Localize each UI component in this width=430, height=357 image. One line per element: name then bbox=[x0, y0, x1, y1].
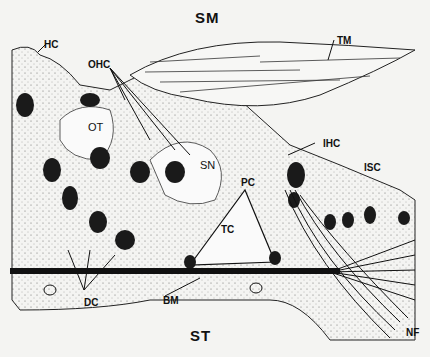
label-ot: OT bbox=[88, 122, 103, 133]
organ-of-corti-diagram: SM ST HC TM OHC OT SN PC IHC ISC TC DC B… bbox=[0, 0, 430, 357]
diagram-drawing bbox=[0, 0, 430, 357]
label-sn: SN bbox=[200, 160, 215, 171]
label-ohc: OHC bbox=[88, 60, 110, 70]
label-nf: NF bbox=[406, 328, 419, 338]
label-hc: HC bbox=[44, 40, 58, 50]
label-dc: DC bbox=[84, 298, 98, 308]
label-tc: TC bbox=[221, 225, 234, 235]
label-tm: TM bbox=[337, 36, 351, 46]
label-ihc: IHC bbox=[323, 139, 340, 149]
label-isc: ISC bbox=[364, 163, 381, 173]
label-bm: BM bbox=[163, 296, 179, 306]
label-pc: PC bbox=[241, 178, 255, 188]
region-label-st: ST bbox=[190, 328, 211, 343]
region-label-sm: SM bbox=[195, 10, 220, 25]
